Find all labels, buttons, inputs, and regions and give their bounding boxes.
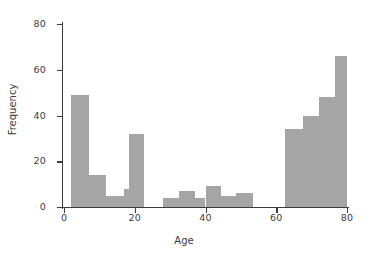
histogram-bar — [163, 198, 179, 207]
histogram-bar — [285, 129, 303, 207]
y-axis-tick — [57, 70, 62, 71]
x-axis-tick-label: 20 — [120, 212, 150, 223]
x-axis-tick-label: 40 — [191, 212, 221, 223]
histogram-bar — [195, 198, 206, 207]
histogram-bar — [236, 193, 254, 207]
y-axis-tick — [57, 207, 62, 208]
histogram-bar — [89, 175, 107, 207]
plot-area — [64, 24, 347, 207]
histogram-bar — [206, 186, 222, 207]
y-axis-tick-label: 40 — [20, 110, 46, 121]
x-axis-tick-label: 80 — [332, 212, 362, 223]
y-axis-tick — [57, 24, 62, 25]
histogram-bar — [129, 134, 143, 207]
y-axis-title: Frequency — [7, 60, 18, 160]
y-axis-tick — [57, 161, 62, 162]
y-axis-tick-label: 0 — [20, 201, 46, 212]
y-axis-tick-label: 20 — [20, 155, 46, 166]
x-axis-tick-label: 0 — [49, 212, 79, 223]
x-axis-line — [60, 207, 349, 208]
y-axis-tick-label: 60 — [20, 64, 46, 75]
y-axis-line — [62, 22, 63, 209]
histogram-bar — [71, 95, 89, 207]
histogram-bar — [319, 97, 335, 207]
histogram-bar — [221, 196, 235, 207]
histogram-bar — [303, 116, 319, 208]
histogram-bar — [179, 191, 195, 207]
histogram-bar — [106, 196, 124, 207]
histogram-chart: 020406080020406080 Age Frequency — [0, 0, 368, 263]
x-axis-tick-label: 60 — [261, 212, 291, 223]
histogram-bar — [335, 56, 347, 207]
x-axis-title: Age — [0, 235, 368, 246]
y-axis-tick — [57, 116, 62, 117]
y-axis-tick-label: 80 — [20, 18, 46, 29]
